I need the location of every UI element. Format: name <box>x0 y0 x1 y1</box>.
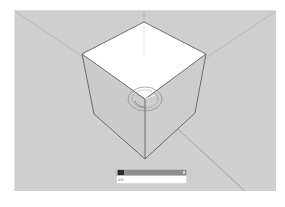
measurements-grip-icon[interactable] <box>183 171 185 174</box>
scene-canvas[interactable] <box>15 11 276 191</box>
measurements-title-bar: Angle <box>116 169 187 176</box>
measurements-box[interactable]: Angle 0.0 <box>116 169 187 183</box>
drawing-viewport[interactable]: Angle 0.0 <box>14 10 276 191</box>
cube[interactable] <box>82 22 206 159</box>
measurements-value-field[interactable]: 0.0 <box>116 176 187 184</box>
measurements-label: Angle <box>118 170 124 175</box>
